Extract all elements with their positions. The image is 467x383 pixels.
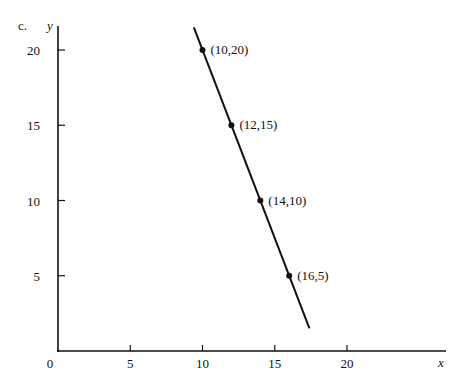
data-point (286, 273, 292, 279)
y-tick-label: 5 (34, 269, 41, 284)
x-tick-label: 10 (196, 356, 209, 371)
x-tick-label: 0 (47, 356, 54, 371)
data-point (200, 47, 206, 53)
y-tick-label: 15 (27, 118, 40, 133)
x-tick-label: 15 (268, 356, 281, 371)
data-points: (10,20)(12,15)(14,10)(16,5) (200, 42, 329, 283)
chart: c. y x 05101520 5101520 (10,20)(12,15)(1… (0, 0, 467, 383)
x-axis-label: x (437, 355, 444, 370)
data-point (257, 198, 263, 204)
point-label: (10,20) (211, 42, 249, 57)
data-point (228, 122, 234, 128)
point-label: (14,10) (268, 193, 306, 208)
x-tick-label: 20 (341, 356, 354, 371)
y-ticks: 5101520 (27, 43, 65, 284)
figure-label: c. (18, 18, 27, 33)
x-tick-label: 5 (127, 356, 134, 371)
x-ticks: 05101520 (47, 345, 354, 371)
y-tick-label: 20 (27, 43, 40, 58)
y-axis-label: y (45, 18, 53, 33)
point-label: (12,15) (239, 117, 277, 132)
y-tick-label: 10 (27, 194, 40, 209)
data-line (194, 27, 310, 328)
point-label: (16,5) (297, 268, 328, 283)
